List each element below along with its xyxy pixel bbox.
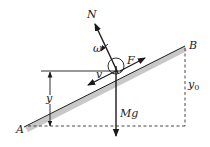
total-height-subscript: 0 (194, 83, 199, 92)
total-height-label: y0 (187, 78, 199, 92)
gravity-force-label: Mg (119, 107, 138, 120)
friction-force-label: F (126, 54, 135, 67)
angular-velocity-label: ω (93, 42, 102, 55)
point-b-label: B (188, 39, 197, 52)
incline-shading (25, 46, 187, 132)
incline-diagram: N ω v F Mg A B y y0 (0, 0, 210, 147)
height-label-y: y (45, 92, 53, 105)
velocity-label: v (96, 68, 103, 81)
normal-force-label: N (86, 8, 97, 21)
point-a-label: A (15, 123, 24, 136)
incline-surface (24, 46, 185, 127)
